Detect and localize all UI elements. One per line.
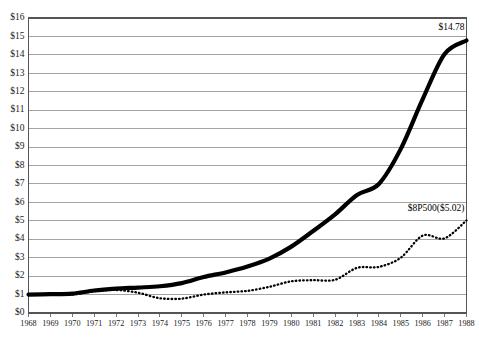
x-axis-tick-label: 1980 [283,319,299,328]
annotation-fund: $14.78 [438,22,464,32]
x-axis-tick-label: 1977 [217,319,233,328]
y-axis-tick-label: $3 [15,252,25,262]
data-series [29,40,467,299]
y-axis-tick-label: $14 [10,49,25,59]
annotation-sp500: $8P500($5.02) [408,203,465,214]
x-axis-tick-label: 1975 [174,319,190,328]
x-axis-tick-label: 1968 [20,319,36,328]
y-axis-tick-label: $4 [15,233,25,243]
y-axis-tick-label: $2 [15,270,25,280]
x-axis-tick-label: 1972 [108,319,124,328]
y-axis-labels: $0$1$2$3$4$5$6$7$8$9$10$11$12$13$14$15$1… [10,12,25,317]
y-axis-tick-label: $0 [15,307,25,317]
y-axis-tick-label: $8 [15,160,25,170]
y-axis-tick-label: $11 [11,104,25,114]
x-axis-tick-label: 1974 [152,319,168,328]
line-chart: $0$1$2$3$4$5$6$7$8$9$10$11$12$13$14$15$1… [0,0,479,344]
x-axis-tick-label: 1976 [196,319,212,328]
y-axis-tick-label: $7 [15,178,25,188]
x-axis-tick-label: 1982 [327,319,343,328]
y-axis-tick-label: $10 [10,123,25,133]
x-axis-tick-label: 1978 [239,319,255,328]
x-axis-tick-label: 1983 [349,319,365,328]
series-line-sp500 [29,220,467,299]
x-axis-tick-label: 1987 [436,319,452,328]
chart-container: $0$1$2$3$4$5$6$7$8$9$10$11$12$13$14$15$1… [0,0,479,344]
y-axis-tick-label: $9 [15,141,25,151]
x-axis-tick-label: 1979 [261,319,277,328]
x-axis-tick-label: 1985 [393,319,409,328]
x-axis-tick-label: 1988 [458,319,474,328]
x-axis-tick-label: 1973 [130,319,146,328]
y-axis-tick-label: $12 [10,86,25,96]
y-axis-tick-label: $16 [10,12,25,22]
y-axis-tick-label: $5 [15,215,25,225]
x-axis-tick-label: 1986 [415,319,431,328]
gridlines [29,36,467,294]
y-axis-tick-label: $15 [10,31,25,41]
x-axis-tick-label: 1984 [371,319,387,328]
x-axis-tick-label: 1970 [64,319,80,328]
y-axis-tick-label: $1 [15,289,25,299]
y-axis-tick-label: $6 [15,197,25,207]
y-axis-tick-label: $13 [10,68,25,78]
x-axis-labels: 1968196919701971197219731974197519761977… [20,319,474,328]
x-axis-tick-label: 1971 [86,319,102,328]
x-axis-tick-label: 1981 [305,319,321,328]
x-axis-tick-label: 1969 [42,319,58,328]
